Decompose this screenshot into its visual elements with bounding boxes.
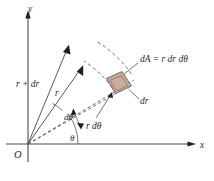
- y-axis-label: y: [27, 4, 33, 14]
- figure-canvas: y x O r + dr r dθ r dθ dr dA = r dr dθ θ: [0, 0, 214, 181]
- x-axis-label: x: [199, 140, 205, 150]
- radial-thickness-label: dr: [140, 96, 149, 106]
- angle-increment-leader-arrowhead-2: [77, 123, 84, 130]
- arc-length-leader-arrowhead: [108, 92, 114, 98]
- polar-area-element-figure: y x O r + dr r dθ r dθ dr dA = r dr dθ θ: [0, 0, 214, 181]
- arc-length-label: r dθ: [86, 121, 102, 131]
- outer-ray-arrowhead: [63, 45, 71, 55]
- area-element-label: dA = r dr dθ: [140, 54, 188, 64]
- angle-increment-label: dθ: [64, 112, 74, 122]
- lower-edge-dashed-ray: [28, 90, 122, 144]
- outer-radius-label: r + dr: [16, 79, 40, 89]
- inner-radius-arc: [84, 61, 112, 88]
- outer-radius-arc: [96, 41, 132, 74]
- area-element-shape: [107, 72, 132, 94]
- origin-label: O: [14, 149, 22, 160]
- inner-radius-label: r: [55, 88, 59, 98]
- polar-angle-label: θ: [70, 133, 75, 143]
- area-element-group: [107, 72, 132, 94]
- radial-thickness-leader: [129, 89, 140, 99]
- x-axis-arrowhead: [188, 141, 197, 146]
- inner-ray-arrowhead: [77, 65, 84, 76]
